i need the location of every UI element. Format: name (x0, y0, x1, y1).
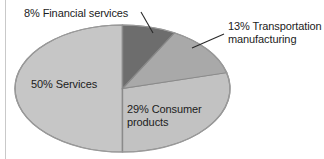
leader-line-transportation-manufacturing (192, 34, 224, 48)
slice-label-financial-services: 8% Financial services (24, 7, 128, 20)
slice-label-transportation-manufacturing: 13% Transportation manufacturing (228, 20, 322, 46)
slice-label-services: 50% Services (31, 78, 97, 91)
pie-chart-figure: 8% Financial services 13% Transportation… (0, 0, 324, 159)
slice-label-consumer-products: 29% Consumer products (127, 103, 202, 129)
